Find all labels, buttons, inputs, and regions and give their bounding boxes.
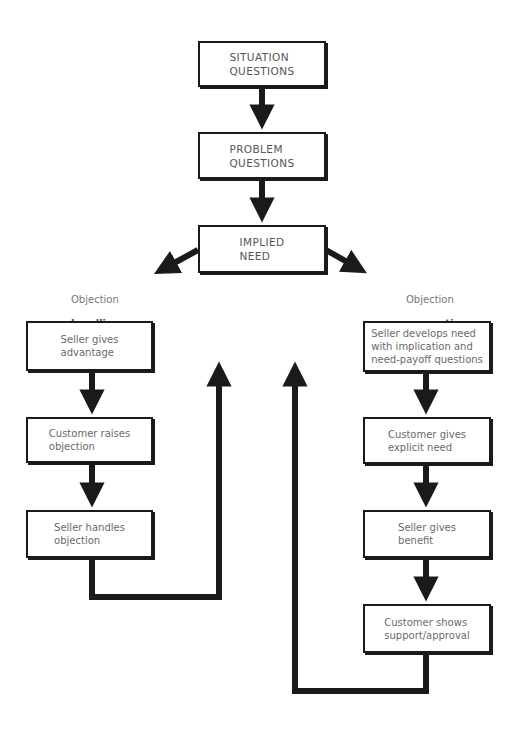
left-loop-arrow — [92, 374, 219, 597]
seller-develops-need-label: Seller develops need with implication an… — [371, 327, 483, 366]
seller-gives-advantage-box: Seller gives advantage — [26, 321, 153, 371]
arrow-implied-to-left — [165, 250, 198, 268]
flowchart-canvas: SITUATION QUESTIONS PROBLEM QUESTIONS IM… — [0, 0, 520, 732]
seller-handles-objection-label: Seller handles objection — [54, 521, 125, 547]
seller-gives-benefit-label: Seller gives benefit — [398, 521, 456, 547]
implied-need-box: IMPLIED NEED — [198, 225, 326, 273]
customer-shows-support-box: Customer shows support/approval — [363, 604, 491, 653]
problem-questions-box: PROBLEM QUESTIONS — [198, 132, 326, 179]
customer-raises-objection-box: Customer raises objection — [26, 417, 153, 463]
caption-line: Objection — [406, 294, 468, 306]
implied-need-label: IMPLIED NEED — [240, 235, 285, 263]
problem-questions-label: PROBLEM QUESTIONS — [229, 142, 294, 170]
caption-line: Objection — [71, 294, 120, 306]
customer-raises-objection-label: Customer raises objection — [49, 427, 130, 453]
arrow-implied-to-right — [326, 250, 356, 267]
customer-gives-explicit-need-label: Customer gives explicit need — [388, 428, 466, 454]
seller-gives-benefit-box: Seller gives benefit — [363, 510, 491, 558]
situation-questions-label: SITUATION QUESTIONS — [229, 50, 294, 78]
customer-gives-explicit-need-box: Customer gives explicit need — [363, 417, 491, 464]
situation-questions-box: SITUATION QUESTIONS — [198, 41, 326, 87]
seller-handles-objection-box: Seller handles objection — [26, 510, 153, 558]
customer-shows-support-label: Customer shows support/approval — [384, 616, 469, 642]
seller-develops-need-box: Seller develops need with implication an… — [363, 321, 491, 372]
seller-gives-advantage-label: Seller gives advantage — [61, 333, 119, 359]
